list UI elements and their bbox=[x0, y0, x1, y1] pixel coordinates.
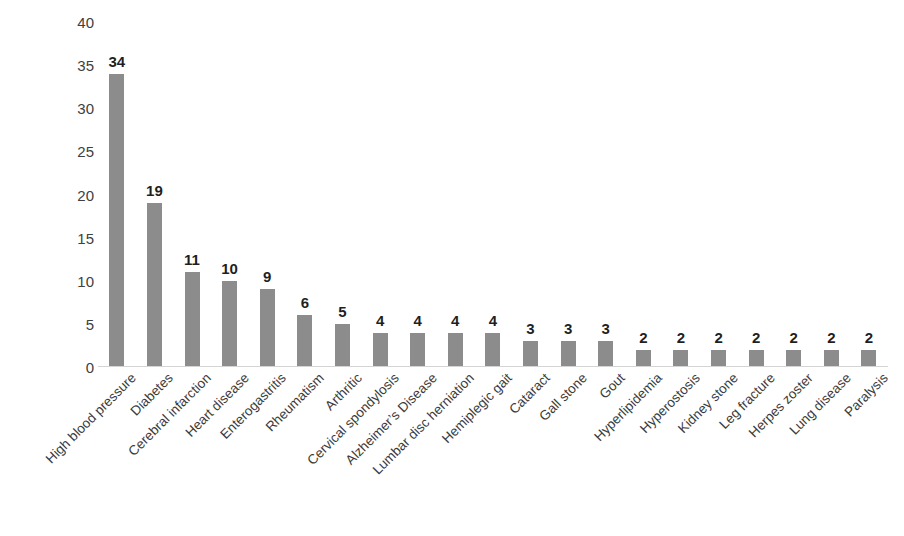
x-axis-label: High blood pressure bbox=[43, 371, 139, 467]
bar-value-label: 2 bbox=[677, 330, 685, 345]
bar-value-label: 4 bbox=[376, 313, 384, 328]
bar-slot[interactable]: 4 bbox=[399, 22, 437, 367]
bar-slot[interactable]: 3 bbox=[587, 22, 625, 367]
bar-value-label: 2 bbox=[865, 330, 873, 345]
bar-value-label: 2 bbox=[752, 330, 760, 345]
bar-value-label: 2 bbox=[827, 330, 835, 345]
bar-value-label: 5 bbox=[338, 304, 346, 319]
bar-slot[interactable]: 9 bbox=[248, 22, 286, 367]
bar-slot[interactable]: 6 bbox=[286, 22, 324, 367]
bar-value-label: 6 bbox=[301, 295, 309, 310]
bar-slot[interactable]: 2 bbox=[662, 22, 700, 367]
bar-rect[interactable] bbox=[485, 333, 500, 368]
x-axis-category-labels: High blood pressureDiabetesCerebral infa… bbox=[98, 369, 888, 519]
bar-value-label: 4 bbox=[489, 313, 497, 328]
bar-rect[interactable] bbox=[260, 289, 275, 367]
bar-value-label: 3 bbox=[602, 321, 610, 336]
bar-rect[interactable] bbox=[373, 333, 388, 368]
bar-rect[interactable] bbox=[297, 315, 312, 367]
x-axis-line bbox=[98, 366, 888, 367]
y-axis-tick-15: 15 bbox=[50, 230, 94, 245]
y-axis-tick-labels: 0510152025303540 bbox=[50, 22, 94, 367]
bar-rect[interactable] bbox=[222, 281, 237, 367]
bar-slot[interactable]: 2 bbox=[813, 22, 851, 367]
bar-value-label: 2 bbox=[714, 330, 722, 345]
bar-slot[interactable]: 2 bbox=[850, 22, 888, 367]
bar-slot[interactable]: 2 bbox=[775, 22, 813, 367]
bar-rect[interactable] bbox=[523, 341, 538, 367]
y-axis-tick-20: 20 bbox=[50, 187, 94, 202]
bar-value-label: 11 bbox=[184, 252, 200, 267]
bar-value-label: 3 bbox=[526, 321, 534, 336]
y-axis-tick-30: 30 bbox=[50, 101, 94, 116]
bar-slot[interactable]: 34 bbox=[98, 22, 136, 367]
bar-rect[interactable] bbox=[824, 350, 839, 367]
bar-slot[interactable]: 2 bbox=[700, 22, 738, 367]
bar-rect[interactable] bbox=[109, 74, 124, 367]
y-axis-tick-10: 10 bbox=[50, 273, 94, 288]
bar-slot[interactable]: 3 bbox=[512, 22, 550, 367]
bar-value-label: 9 bbox=[263, 269, 271, 284]
bar-value-label: 34 bbox=[108, 54, 125, 69]
bar-slot[interactable]: 2 bbox=[737, 22, 775, 367]
bar-slot[interactable]: 4 bbox=[474, 22, 512, 367]
bar-rect[interactable] bbox=[786, 350, 801, 367]
bar-rect[interactable] bbox=[636, 350, 651, 367]
bar-rect[interactable] bbox=[673, 350, 688, 367]
bar-rect[interactable] bbox=[711, 350, 726, 367]
bar-rect[interactable] bbox=[561, 341, 576, 367]
bar-value-label: 3 bbox=[564, 321, 572, 336]
bar-rect[interactable] bbox=[598, 341, 613, 367]
bar-rect[interactable] bbox=[147, 203, 162, 367]
bar-value-label: 2 bbox=[790, 330, 798, 345]
bar-slot[interactable]: 5 bbox=[324, 22, 362, 367]
x-axis-label: Hemiplegic gait bbox=[440, 371, 516, 447]
bar-series: 3419111096544443332222222 bbox=[98, 22, 888, 367]
bar-chart: Number of suffer ng elderly people 05101… bbox=[0, 0, 904, 536]
y-axis-tick-5: 5 bbox=[50, 316, 94, 331]
y-axis-tick-25: 25 bbox=[50, 144, 94, 159]
bar-slot[interactable]: 4 bbox=[361, 22, 399, 367]
bar-rect[interactable] bbox=[861, 350, 876, 367]
bar-slot[interactable]: 19 bbox=[136, 22, 174, 367]
bar-value-label: 4 bbox=[414, 313, 422, 328]
bar-slot[interactable]: 4 bbox=[436, 22, 474, 367]
bar-slot[interactable]: 3 bbox=[549, 22, 587, 367]
x-axis-label: Gout bbox=[597, 371, 628, 402]
bar-value-label: 10 bbox=[221, 261, 238, 276]
bar-slot[interactable]: 11 bbox=[173, 22, 211, 367]
y-axis-tick-40: 40 bbox=[50, 15, 94, 30]
bar-rect[interactable] bbox=[749, 350, 764, 367]
bar-value-label: 4 bbox=[451, 313, 459, 328]
y-axis-tick-0: 0 bbox=[50, 360, 94, 375]
bar-value-label: 19 bbox=[146, 183, 163, 198]
bar-rect[interactable] bbox=[185, 272, 200, 367]
bar-slot[interactable]: 2 bbox=[625, 22, 663, 367]
bar-value-label: 2 bbox=[639, 330, 647, 345]
bar-rect[interactable] bbox=[448, 333, 463, 368]
y-axis-tick-35: 35 bbox=[50, 58, 94, 73]
bar-slot[interactable]: 10 bbox=[211, 22, 249, 367]
bar-rect[interactable] bbox=[335, 324, 350, 367]
bar-rect[interactable] bbox=[410, 333, 425, 368]
plot-area: 3419111096544443332222222 bbox=[98, 22, 888, 367]
